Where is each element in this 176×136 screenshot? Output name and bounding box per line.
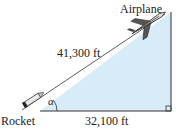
base-label: 32,100 ft: [85, 115, 128, 127]
rocket-label: Rocket: [1, 115, 35, 127]
rocket-icon: [22, 90, 45, 108]
triangle-fill: [40, 12, 171, 111]
airplane-label: Airplane: [120, 3, 162, 15]
hypotenuse-label: 41,300 ft: [57, 47, 100, 59]
angle-label: α: [48, 96, 54, 107]
triangle-diagram: Airplane 41,300 ft α Rocket 32,100 ft: [0, 0, 176, 136]
